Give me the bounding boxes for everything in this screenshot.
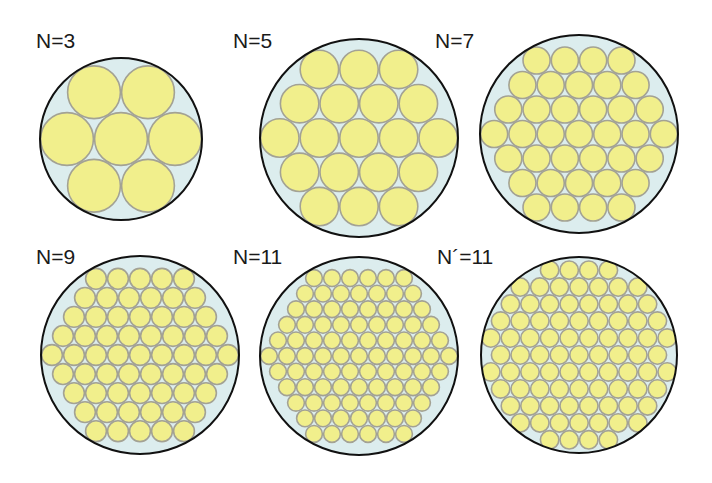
strand-circle [648,380,666,398]
strand-circle [405,410,422,427]
strand-circle [342,426,359,443]
strand-circle [609,414,627,432]
strand-circle [537,71,564,98]
strand-circle [540,295,558,313]
strand-circle [599,295,617,313]
strand-circle [333,379,350,396]
strand-circle [589,346,607,364]
strand-circle [537,120,564,147]
strand-circle [185,326,206,347]
strand-circle [550,346,568,364]
strand-circle [288,332,305,349]
strand-circle [64,383,85,404]
strand-circle [130,345,151,366]
strand-circle [609,312,627,330]
strand-circle [342,332,359,349]
panel-label: N´=11 [437,245,493,268]
strand-circle [608,96,635,123]
strand-circle [501,363,519,381]
panel-2: N=7 [435,29,678,233]
strand-circle [119,326,140,347]
strand-circle [119,287,140,308]
strand-circle [378,301,395,318]
strand-circle [196,345,217,366]
strand-circle [351,316,368,333]
strand-circle [320,85,358,123]
strand-circle [130,421,151,442]
strand-circle [351,348,368,365]
strand-circle [638,363,656,381]
strand-circle [122,159,175,212]
strand-circle [360,363,377,380]
strand-circle [174,268,195,289]
strand-circle [523,96,550,123]
strand-circle [638,397,656,415]
strand-circle [565,120,592,147]
strand-circle [550,380,568,398]
strand-circle [599,329,617,347]
strand-circle [163,326,184,347]
strand-circle [218,345,239,366]
strand-circle [86,306,107,327]
strand-circle [279,316,296,333]
strand-circle [594,71,621,98]
strand-circle [531,380,549,398]
strand-circle [387,379,404,396]
strand-circle [609,380,627,398]
strand-circle [306,363,323,380]
strand-circle [491,346,509,364]
strand-circle [141,364,162,385]
strand-circle [379,187,417,225]
strand-circle [550,278,568,296]
strand-circle [207,364,228,385]
strand-circle [280,85,318,123]
strand-circle [97,326,118,347]
strand-circle [378,426,395,443]
strand-circle [405,379,422,396]
strand-circle [163,287,184,308]
strand-circle [369,379,386,396]
strand-circle [495,96,522,123]
strand-circle [315,410,332,427]
strand-circle [405,316,422,333]
strand-circle [537,169,564,196]
panel-4: N=11 [233,245,458,455]
strand-circle [609,346,627,364]
strand-circle [589,414,607,432]
strand-circle [360,426,377,443]
strand-circle [648,312,666,330]
strand-circle [432,363,449,380]
strand-circle [387,316,404,333]
strand-circle [119,364,140,385]
strand-circle [320,153,358,191]
strand-circle [580,431,598,449]
strand-circle [333,316,350,333]
strand-circle [300,50,338,88]
strand-circle [315,348,332,365]
strand-circle [399,85,437,123]
strand-circle [315,379,332,396]
strand-circle [580,96,607,123]
strand-circle [550,414,568,432]
strand-circle [551,47,578,74]
strand-circle [540,397,558,415]
strand-circle [521,363,539,381]
panel-label: N=9 [36,245,75,268]
strand-circle [64,345,85,366]
strand-circle [351,285,368,302]
strand-circle [185,287,206,308]
strand-circle [75,287,96,308]
panel-label: N=5 [233,29,272,52]
strand-circle [152,345,173,366]
strand-circle [423,379,440,396]
circle-packing-diagram: N=3N=5N=7N=9N=11N´=11 [0,0,712,483]
strand-circle [441,348,458,365]
strand-circle [288,363,305,380]
strand-circle [521,329,539,347]
strand-circle [432,332,449,349]
strand-circle [95,113,148,166]
strand-circle [297,285,314,302]
strand-circle [174,383,195,404]
strand-circle [108,345,129,366]
strand-circle [511,312,529,330]
